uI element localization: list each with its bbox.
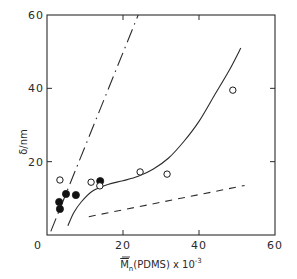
open-data-point [88,179,94,185]
axis-tick-labels: 0204060204060 [28,9,283,252]
filled-data-point [56,198,63,205]
dashed-line [89,186,245,217]
filled-data-point [62,190,69,197]
x-tick-label: 20 [115,239,131,252]
solid-curve [68,48,241,226]
x-tick-label: 0 [34,239,42,252]
open-data-point [164,171,170,177]
curves [51,15,245,231]
scatter-chart: 0204060204060 δ/nm Mn(PDMS) x 10-3 [0,0,297,279]
y-axis-title: δ/nm [18,129,29,155]
x-tick-label: 60 [267,239,283,252]
filled-data-point [72,191,79,198]
x-axis-title-text: Mn(PDMS) x 10-3 [120,257,202,273]
dash-dot-line [51,15,138,231]
x-tick-label: 40 [191,239,207,252]
open-data-point [97,183,103,189]
open-data-point [230,87,236,93]
y-tick-label: 20 [28,156,44,169]
y-tick-label: 40 [28,82,44,95]
open-data-point [137,169,143,175]
x-axis-title: Mn(PDMS) x 10-3 [120,257,202,273]
filled-data-point [56,205,63,212]
y-axis-title-text: δ/nm [18,129,29,155]
open-data-point [57,177,63,183]
y-tick-label: 60 [28,9,44,22]
